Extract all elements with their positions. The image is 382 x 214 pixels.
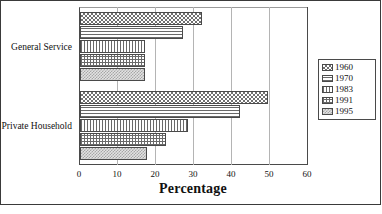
bar-general-service-1960 [80,12,202,25]
legend-label-1983: 1983 [335,85,353,94]
x-tick-60: 60 [297,169,317,179]
legend-item-1960: 1960 [322,62,373,73]
bar-private-household-1995 [80,147,147,160]
gridline-30 [193,7,194,165]
legend-label-1960: 1960 [335,63,353,72]
category-label-general-service: General Service [0,42,72,52]
x-tick-40: 40 [221,169,241,179]
legend-swatch-horizontal-lines-icon [322,75,333,82]
legend-label-1970: 1970 [335,74,353,83]
legend-swatch-checker-dark-icon [322,64,333,71]
legend-swatch-cross-hatch-icon [322,97,333,104]
legend-item-1991: 1991 [322,95,373,106]
bar-private-household-1970 [80,105,240,118]
bar-general-service-1983 [80,40,145,53]
legend-swatch-vertical-lines-icon [322,86,333,93]
chart-frame: General ServicePrivate Household 0102030… [0,0,381,205]
legend: 19601970198319911995 [318,59,376,120]
bar-private-household-1960 [80,91,268,104]
legend-swatch-checker-light-icon [322,108,333,115]
legend-item-1995: 1995 [322,106,373,117]
gridline-60 [307,7,308,165]
legend-label-1991: 1991 [335,96,353,105]
legend-item-1983: 1983 [322,84,373,95]
x-axis-title: Percentage [79,181,307,197]
gridline-40 [231,7,232,165]
legend-label-1995: 1995 [335,107,353,116]
bar-private-household-1991 [80,133,166,146]
bar-general-service-1991 [80,54,145,67]
x-tick-20: 20 [145,169,165,179]
category-label-private-household: Private Household [0,121,72,131]
x-tick-10: 10 [107,169,127,179]
bar-private-household-1983 [80,119,188,132]
x-tick-30: 30 [183,169,203,179]
x-tick-0: 0 [69,169,89,179]
bar-general-service-1995 [80,68,145,81]
gridline-50 [269,7,270,165]
legend-item-1970: 1970 [322,73,373,84]
bar-general-service-1970 [80,26,183,39]
x-tick-50: 50 [259,169,279,179]
